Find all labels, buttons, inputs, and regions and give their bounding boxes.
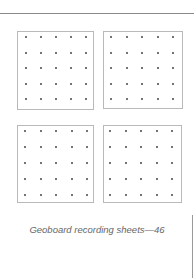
geoboard-peg-dot	[126, 36, 128, 38]
board-top-right	[103, 31, 183, 109]
geoboard-peg-dot	[125, 162, 127, 164]
geoboard-peg-dot	[70, 67, 72, 69]
geoboard-peg-dot	[140, 162, 142, 164]
geoboard-peg-dot	[55, 194, 57, 196]
geoboard-peg-dot	[157, 83, 159, 85]
geoboard-peg-dot	[125, 146, 127, 148]
geoboard-peg-dot	[157, 98, 159, 100]
geoboard-peg-dot	[71, 162, 73, 164]
geoboard-peg-dot	[86, 194, 88, 196]
geoboard-peg-dot	[86, 162, 88, 164]
board-bottom-right	[103, 125, 182, 203]
geoboard-peg-dot	[55, 146, 57, 148]
geoboard-peg-dot	[71, 146, 73, 148]
geoboard-peg-dot	[24, 162, 26, 164]
geoboard-peg-dot	[85, 67, 87, 69]
geoboard-peg-dot	[156, 194, 158, 196]
geoboard-peg-dot	[25, 52, 27, 54]
geoboard-peg-dot	[140, 194, 142, 196]
geoboard-peg-dot	[126, 67, 128, 69]
geoboard-peg-dot	[110, 67, 112, 69]
geoboard-peg-dot	[55, 83, 57, 85]
geoboard-peg-dot	[126, 52, 128, 54]
geoboard-peg-dot	[109, 146, 111, 148]
geoboard-peg-dot	[156, 178, 158, 180]
geoboard-peg-dot	[55, 36, 57, 38]
geoboard-peg-dot	[110, 98, 112, 100]
geoboard-peg-dot	[86, 178, 88, 180]
geoboard-peg-dot	[125, 194, 127, 196]
geoboard-peg-dot	[126, 83, 128, 85]
geoboard-peg-dot	[86, 130, 88, 132]
geoboard-peg-dot	[40, 130, 42, 132]
geoboard-peg-dot	[125, 178, 127, 180]
geoboard-peg-dot	[126, 98, 128, 100]
geoboard-peg-dot	[85, 98, 87, 100]
page-caption: Geoboard recording sheets—46	[0, 224, 194, 235]
geoboard-peg-dot	[109, 130, 111, 132]
geoboard-peg-dot	[25, 36, 27, 38]
geoboard-peg-dot	[172, 52, 174, 54]
geoboard-peg-dot	[141, 83, 143, 85]
geoboard-peg-dot	[25, 98, 27, 100]
geoboard-peg-dot	[25, 67, 27, 69]
geoboard-peg-dot	[141, 98, 143, 100]
board-bottom-left	[17, 125, 94, 203]
geoboard-peg-dot	[71, 130, 73, 132]
geoboard-peg-dot	[109, 162, 111, 164]
geoboard-peg-dot	[40, 178, 42, 180]
geoboard-peg-dot	[140, 178, 142, 180]
geoboard-peg-dot	[40, 67, 42, 69]
geoboard-peg-dot	[24, 130, 26, 132]
geoboard-peg-dot	[172, 36, 174, 38]
geoboard-peg-dot	[55, 67, 57, 69]
geoboard-peg-dot	[172, 67, 174, 69]
geoboard-peg-dot	[140, 146, 142, 148]
geoboard-peg-dot	[109, 178, 111, 180]
geoboard-peg-dot	[157, 52, 159, 54]
geoboard-peg-dot	[40, 98, 42, 100]
geoboard-peg-dot	[172, 83, 174, 85]
geoboard-peg-dot	[141, 67, 143, 69]
geoboard-peg-dot	[156, 162, 158, 164]
geoboard-peg-dot	[125, 130, 127, 132]
geoboard-peg-dot	[40, 36, 42, 38]
geoboard-peg-dot	[40, 162, 42, 164]
geoboard-peg-dot	[24, 178, 26, 180]
geoboard-peg-dot	[55, 178, 57, 180]
geoboard-peg-dot	[110, 36, 112, 38]
geoboard-peg-dot	[110, 83, 112, 85]
geoboard-peg-dot	[141, 36, 143, 38]
geoboard-peg-dot	[85, 83, 87, 85]
geoboard-peg-dot	[55, 52, 57, 54]
geoboard-peg-dot	[24, 194, 26, 196]
geoboard-peg-dot	[40, 194, 42, 196]
geoboard-peg-dot	[40, 83, 42, 85]
geoboard-peg-dot	[24, 146, 26, 148]
geoboard-peg-dot	[171, 162, 173, 164]
geoboard-peg-dot	[110, 52, 112, 54]
geoboard-peg-dot	[171, 178, 173, 180]
geoboard-peg-dot	[55, 162, 57, 164]
geoboard-peg-dot	[71, 194, 73, 196]
geoboard-peg-dot	[141, 52, 143, 54]
geoboard-peg-dot	[157, 67, 159, 69]
geoboard-peg-dot	[40, 146, 42, 148]
geoboard-peg-dot	[70, 98, 72, 100]
geoboard-peg-dot	[70, 52, 72, 54]
geoboard-peg-dot	[157, 36, 159, 38]
geoboard-peg-dot	[171, 130, 173, 132]
geoboard-peg-dot	[71, 178, 73, 180]
top-rule-divider	[0, 13, 194, 14]
geoboard-peg-dot	[55, 98, 57, 100]
geoboard-peg-dot	[70, 83, 72, 85]
geoboard-peg-dot	[85, 52, 87, 54]
geoboard-peg-dot	[85, 36, 87, 38]
geoboard-peg-dot	[40, 52, 42, 54]
geoboard-peg-dot	[25, 83, 27, 85]
geoboard-peg-dot	[171, 194, 173, 196]
geoboard-peg-dot	[86, 146, 88, 148]
geoboard-peg-dot	[70, 36, 72, 38]
geoboard-peg-dot	[109, 194, 111, 196]
geoboard-peg-dot	[140, 130, 142, 132]
